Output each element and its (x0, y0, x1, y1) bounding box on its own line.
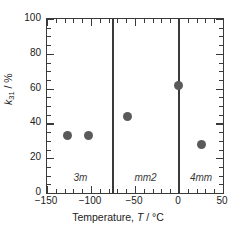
y-tick-right-major (216, 158, 223, 159)
phase-label-mm2: mm2 (134, 172, 156, 183)
y-tick-minor (47, 80, 51, 81)
y-tick-right-minor (219, 97, 223, 98)
y-tick-right-minor (219, 167, 223, 168)
y-tick-right-major (216, 89, 223, 90)
y-axis-symbol: k (2, 100, 14, 105)
x-tick-minor (82, 189, 83, 193)
x-tick-minor (197, 189, 198, 193)
y-tick-minor (47, 97, 51, 98)
x-tick-top-minor (56, 19, 57, 23)
y-tick-right-minor (219, 71, 223, 72)
y-tick-minor (47, 150, 51, 151)
y-tick-right-major (216, 123, 223, 124)
y-tick-minor (47, 45, 51, 46)
y-tick-right-minor (219, 80, 223, 81)
x-tick-minor (153, 189, 154, 193)
x-tick-major (91, 186, 92, 193)
y-tick-minor (47, 141, 51, 142)
x-tick-minor (205, 189, 206, 193)
x-tick-major (135, 186, 136, 193)
data-point (197, 140, 206, 149)
y-tick-right-minor (219, 132, 223, 133)
y-tick-minor (47, 71, 51, 72)
x-tick-top-major (135, 19, 136, 26)
y-tick-minor (47, 132, 51, 133)
phase-boundary-line (112, 19, 114, 193)
y-tick-label: 20 (30, 151, 41, 163)
x-tick-top-minor (153, 19, 154, 23)
y-tick-label: 100 (24, 12, 41, 24)
y-tick-right-minor (219, 184, 223, 185)
x-tick-minor (117, 189, 118, 193)
x-tick-top-minor (117, 19, 118, 23)
x-tick-top-minor (188, 19, 189, 23)
y-tick-right-minor (219, 63, 223, 64)
y-tick-right-minor (219, 36, 223, 37)
y-tick-right-minor (219, 106, 223, 107)
x-tick-top-major (91, 19, 92, 26)
x-tick-minor (188, 189, 189, 193)
y-axis-label: k31 / % (2, 73, 16, 105)
y-tick-right-minor (219, 28, 223, 29)
y-tick-minor (47, 36, 51, 37)
data-point (174, 81, 183, 90)
y-tick-right-major (216, 19, 223, 20)
y-tick-minor (47, 167, 51, 168)
x-tick-minor (56, 189, 57, 193)
x-tick-major (47, 186, 48, 193)
x-tick-label: 50 (216, 195, 227, 207)
data-point (123, 112, 132, 121)
y-tick-right-major (216, 193, 223, 194)
x-tick-minor (109, 189, 110, 193)
y-tick-major (47, 89, 54, 90)
x-tick-minor (65, 189, 66, 193)
x-tick-top-minor (65, 19, 66, 23)
y-tick-major (47, 158, 54, 159)
y-tick-minor (47, 184, 51, 185)
x-tick-label: −50 (126, 195, 143, 207)
y-tick-right-major (216, 54, 223, 55)
x-tick-label: 0 (175, 195, 181, 207)
x-tick-minor (170, 189, 171, 193)
data-point (84, 131, 93, 140)
x-tick-minor (126, 189, 127, 193)
x-tick-minor (161, 189, 162, 193)
x-tick-top-minor (197, 19, 198, 23)
y-tick-major (47, 54, 54, 55)
x-axis-label: Temperature, T / °C (0, 211, 236, 223)
x-axis-units: / °C (143, 211, 164, 223)
y-tick-right-minor (219, 176, 223, 177)
y-tick-minor (47, 63, 51, 64)
y-axis-units: / % (2, 73, 14, 91)
phase-label-4mm: 4mm (190, 172, 212, 183)
x-tick-top-minor (144, 19, 145, 23)
x-tick-top-minor (109, 19, 110, 23)
y-tick-label: 60 (30, 82, 41, 94)
x-tick-minor (144, 189, 145, 193)
x-axis-label-prefix: Temperature, (72, 211, 137, 223)
x-tick-top-minor (73, 19, 74, 23)
plot-area: 3mmm24mm (46, 18, 224, 194)
y-tick-minor (47, 106, 51, 107)
data-point (63, 131, 72, 140)
y-tick-right-minor (219, 150, 223, 151)
y-tick-right-minor (219, 45, 223, 46)
x-tick-label: −100 (79, 195, 102, 207)
x-tick-top-minor (170, 19, 171, 23)
y-tick-major (47, 123, 54, 124)
x-tick-major (223, 186, 224, 193)
y-tick-label: 0 (35, 186, 41, 198)
x-tick-top-minor (100, 19, 101, 23)
phase-label-3m: 3m (73, 172, 87, 183)
phase-boundary-line (178, 19, 180, 193)
x-tick-top-minor (82, 19, 83, 23)
x-tick-top-minor (126, 19, 127, 23)
y-tick-minor (47, 176, 51, 177)
y-tick-minor (47, 28, 51, 29)
y-tick-label: 40 (30, 116, 41, 128)
y-tick-right-minor (219, 141, 223, 142)
x-tick-minor (73, 189, 74, 193)
y-tick-label: 80 (30, 47, 41, 59)
y-tick-major (47, 19, 54, 20)
y-tick-right-minor (219, 115, 223, 116)
